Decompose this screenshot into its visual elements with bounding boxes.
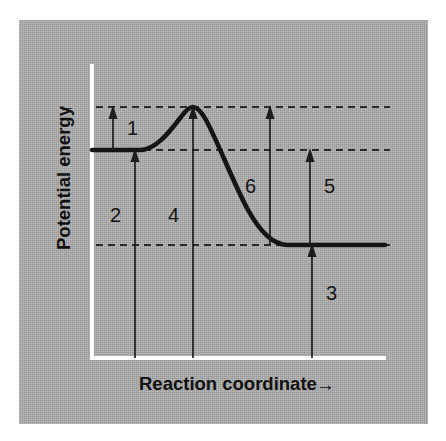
annotation-6-label: 6 [245,175,256,197]
annotation-5: 5 [306,148,336,245]
potential-energy-plot: 1 2 4 6 [19,20,428,424]
annotation-5-label: 5 [324,175,335,197]
annotation-3: 3 [308,243,338,358]
x-axis-title-group: Reaction coordinate → [139,373,335,395]
annotation-4-label: 4 [168,204,179,226]
annotation-2: 2 [110,148,140,358]
y-axis-arrow-icon: ↑ [54,104,75,113]
annotation-1: 1 [109,105,139,150]
x-axis-arrow-icon: → [316,374,335,395]
y-axis-title: Potential energy [53,105,74,250]
figure-root: 1 2 4 6 [0,0,446,441]
annotation-6: 6 [245,105,275,245]
annotation-4: 4 [168,105,198,358]
diagram-panel: 1 2 4 6 [19,20,428,424]
y-axis-title-group: Potential energy ↑ [53,104,75,250]
annotation-1-label: 1 [127,117,138,139]
annotation-2-label: 2 [110,204,121,226]
annotation-3-label: 3 [326,282,337,304]
level-dashed-lines [96,107,390,245]
x-axis-title: Reaction coordinate [139,373,317,394]
